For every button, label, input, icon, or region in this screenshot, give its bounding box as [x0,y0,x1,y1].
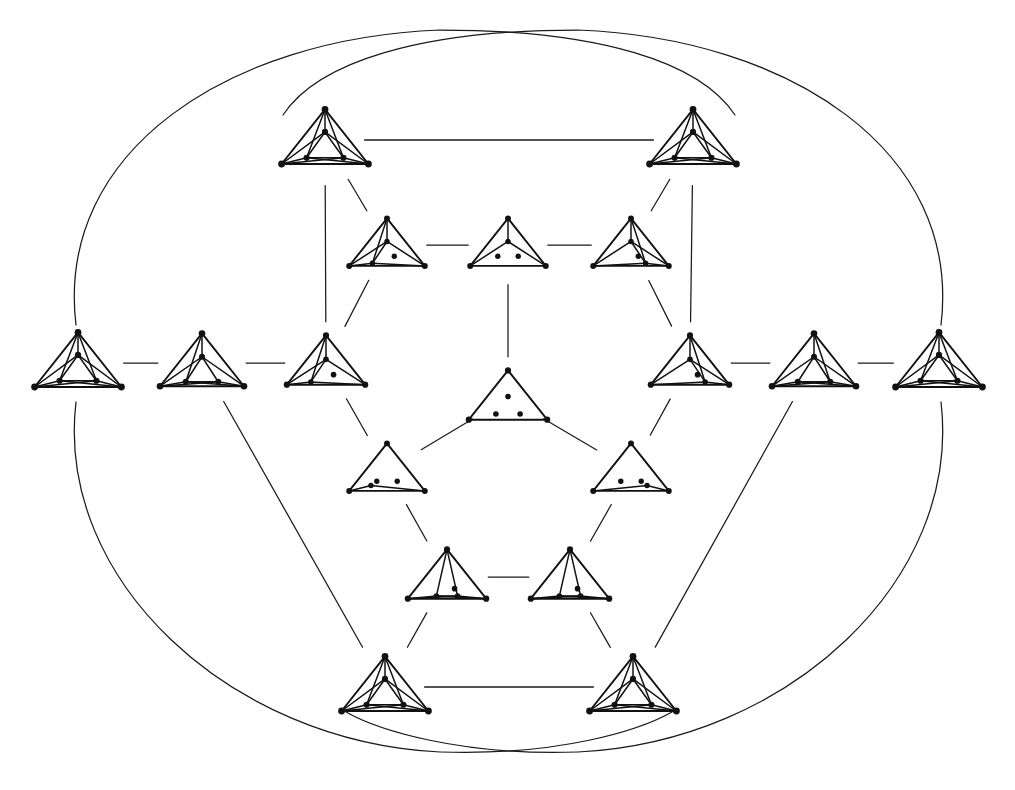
cover-relation-line [406,505,426,541]
graph-corner-vertex [241,383,248,390]
graph-node[interactable] [31,329,125,390]
graph-triangle-outline [593,443,669,491]
outer-arcs-layer [74,30,942,752]
graph-corner-vertex [606,596,612,602]
graph-corner-vertex [422,263,428,269]
graph-corner-vertex [75,329,82,336]
graph-inner-vertex [936,352,942,358]
graph-isolated-vertex [618,479,623,484]
graph-inner-chord [690,359,705,382]
graph-isolated-vertex [575,586,581,592]
graph-inner-vertex [671,155,677,161]
graph-inner-chord [385,679,403,705]
graph-inner-vertex [308,379,314,385]
graph-corner-vertex [346,488,352,494]
graph-node[interactable] [590,215,672,268]
graph-inner-vertex [56,378,62,384]
graph-inner-chord [325,132,343,158]
graph-node[interactable] [284,332,369,387]
graph-corner-vertex [628,215,634,221]
graph-node[interactable] [646,106,740,167]
graph-node[interactable] [346,215,428,268]
graph-isolated-vertex [374,479,379,484]
left-outer-arc-path [74,30,735,325]
graph-inner-vertex [643,261,648,266]
graph-corner-vertex [365,161,372,168]
graph-node[interactable] [467,215,549,268]
graph-corner-vertex [666,263,672,269]
graph-node[interactable] [157,330,248,389]
graph-corner-vertex [284,382,290,388]
graph-isolated-vertex [493,411,499,417]
graph-inner-vertex [384,239,389,244]
graph-corner-vertex [323,332,329,338]
graph-node[interactable] [769,330,860,389]
graph-corner-vertex [690,106,697,113]
graph-isolated-vertex [331,372,337,378]
graph-node[interactable] [892,329,986,390]
graph-inner-chord [615,679,633,705]
graph-corner-vertex [544,417,550,423]
lattice-diagram-svg [0,0,1015,790]
graph-node[interactable] [586,653,680,714]
cover-relation-line [590,613,610,648]
cover-relation-line [590,505,611,542]
graph-inner-vertex [687,357,693,363]
graph-corner-vertex [567,546,573,552]
graph-inner-edge [349,241,387,265]
graph-corner-vertex [590,263,596,269]
cover-relation-line [224,401,363,647]
graph-corner-vertex [687,332,693,338]
graph-isolated-vertex [517,411,523,417]
graph-corner-vertex [384,215,390,221]
graph-node[interactable] [590,440,672,493]
graph-corner-vertex [425,708,432,715]
graph-inner-chord [186,357,202,382]
graph-corner-vertex [628,440,634,446]
graph-corner-vertex [979,384,986,391]
graph-inner-vertex [370,261,375,266]
graph-inner-chord [939,355,957,381]
graph-corner-vertex [936,329,943,336]
graph-inner-vertex [630,676,636,682]
graph-node[interactable] [338,653,432,714]
graph-corner-vertex [278,161,285,168]
graph-corner-vertex [384,440,390,446]
graph-node[interactable] [405,546,490,601]
cover-relation-line [655,402,792,648]
graph-isolated-vertex [392,254,397,259]
graph-inner-chord [675,132,693,158]
graph-inner-vertex [215,379,221,385]
diagram-canvas [0,0,1015,790]
graph-inner-vertex [382,676,388,682]
graph-node[interactable] [346,440,428,493]
graph-inner-vertex [628,239,633,244]
graph-inner-vertex [611,702,617,708]
graph-inner-vertex [702,379,708,385]
graph-node[interactable] [648,332,733,387]
graph-corner-vertex [811,330,818,337]
graph-corner-vertex [466,417,472,423]
graph-corner-vertex [157,383,164,390]
graph-corner-vertex [528,596,534,602]
graph-inner-vertex [917,378,923,384]
graph-corner-vertex [892,384,899,391]
graph-inner-vertex [648,702,654,708]
graph-corner-vertex [666,488,672,494]
graph-node[interactable] [466,367,551,422]
graph-inner-edge [690,359,729,384]
graph-inner-vertex [75,352,81,358]
graph-corner-vertex [405,596,411,602]
graph-inner-chord [311,359,326,382]
graph-inner-vertex [434,593,440,599]
graph-inner-vertex [303,155,309,161]
graph-inner-chord [367,679,385,705]
graph-inner-edge [326,359,365,384]
graph-node[interactable] [528,546,613,601]
graph-node[interactable] [278,106,372,167]
graph-corner-vertex [422,488,428,494]
graph-inner-chord [78,355,96,381]
graph-isolated-vertex [695,372,701,378]
graph-corner-vertex [444,546,450,552]
graph-inner-edge [470,241,508,265]
